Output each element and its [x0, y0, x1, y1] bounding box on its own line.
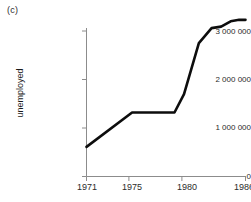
- y-tick-marks: [82, 31, 87, 177]
- axes: [87, 28, 247, 177]
- plot-area: [0, 0, 251, 202]
- data-line-unemployed: [87, 20, 246, 147]
- figure-panel-c: (c) unemployed 0 1 000 000 2 000 000 3 0…: [0, 0, 251, 202]
- x-tick-marks: [87, 177, 246, 182]
